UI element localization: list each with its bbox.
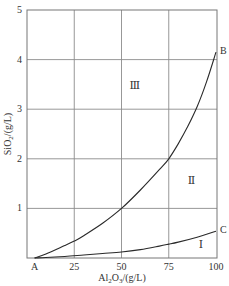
curve-b: [35, 52, 216, 258]
annotation-Ⅰ: Ⅰ: [199, 238, 203, 250]
annotation-B: B: [220, 45, 227, 56]
grid-lines: [27, 10, 217, 258]
y-tick-label: 4: [17, 54, 22, 65]
y-axis-label: SiO2/(g/L): [2, 113, 15, 155]
annotation-C: C: [220, 224, 227, 235]
x-axis-label: Al2O3/(g/L): [98, 272, 146, 285]
tick-labels: A25507510012345: [17, 4, 224, 272]
annotation-Ⅱ: Ⅱ: [188, 174, 195, 186]
x-tick-label: A: [31, 261, 39, 272]
plot-frame: [27, 10, 217, 258]
x-tick-label: 100: [209, 261, 224, 272]
annotation-Ⅲ: Ⅲ: [129, 79, 140, 91]
y-tick-label: 1: [17, 202, 22, 213]
x-tick-label: 75: [164, 261, 174, 272]
x-tick-label: 50: [117, 261, 127, 272]
y-tick-label: 5: [17, 4, 22, 15]
y-tick-label: 3: [17, 103, 22, 114]
curve-c: [35, 231, 216, 258]
curves: [35, 52, 216, 258]
y-tick-label: 2: [17, 153, 22, 164]
x-tick-label: 25: [69, 261, 79, 272]
chart: A25507510012345 ⅢⅡⅠBC Al2O3/(g/L) SiO2/(…: [0, 0, 229, 286]
annotations: ⅢⅡⅠBC: [129, 45, 227, 250]
